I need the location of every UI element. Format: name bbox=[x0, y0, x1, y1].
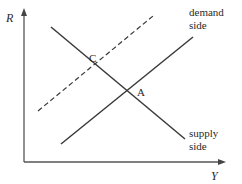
point-a-label: A bbox=[137, 86, 145, 98]
y-axis-label: R bbox=[5, 11, 14, 25]
demand-side-curve bbox=[61, 37, 193, 144]
demand-side-label-line1: demand bbox=[189, 6, 224, 18]
supply-side-label-line1: supply bbox=[189, 127, 219, 139]
point-c-label: C bbox=[89, 52, 96, 64]
supply-side-label-line2: side bbox=[189, 140, 207, 152]
rate-output-diagram: R Y C A demand side supply side bbox=[0, 0, 242, 184]
x-axis-label: Y bbox=[211, 169, 219, 183]
demand-side-label-line2: side bbox=[189, 19, 207, 31]
